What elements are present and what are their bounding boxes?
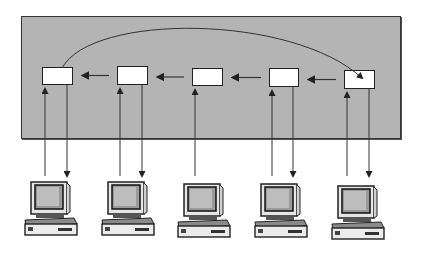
computer-icon bbox=[252, 182, 310, 244]
ring-network-diagram bbox=[0, 0, 421, 256]
computer-4 bbox=[252, 182, 310, 244]
computer-icon bbox=[99, 180, 157, 242]
computer-icon bbox=[329, 184, 387, 246]
computer-icon bbox=[175, 182, 233, 244]
computer-3 bbox=[175, 182, 233, 244]
computer-1 bbox=[22, 180, 80, 242]
computer-icon bbox=[22, 180, 80, 242]
computer-5 bbox=[329, 184, 387, 246]
computer-2 bbox=[99, 180, 157, 242]
